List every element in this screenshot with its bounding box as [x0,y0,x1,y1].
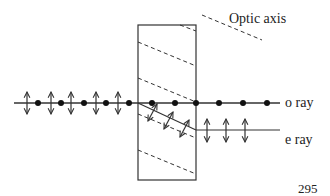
optic-axis-label: Optic axis [229,11,286,27]
o-ray-label: o ray [285,95,313,111]
page-number: 295 [298,181,318,196]
optic-axis-lines [138,15,262,174]
birefringence-diagram [0,0,330,196]
e-ray-label: e ray [285,132,313,148]
